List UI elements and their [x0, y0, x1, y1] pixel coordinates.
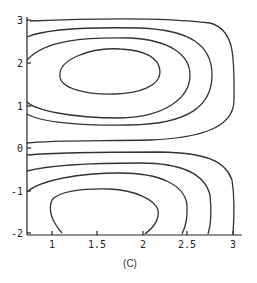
- contour-line: [60, 49, 160, 94]
- contour-line: [27, 38, 190, 118]
- contour-lines: [27, 19, 234, 234]
- y-tick-label: 1: [17, 101, 23, 112]
- contour-line: [27, 28, 212, 125]
- x-tick-label: 1: [49, 239, 55, 250]
- y-tick-label: 3: [17, 15, 23, 26]
- y-tick-label: -1: [11, 186, 23, 197]
- y-tick-label: 0: [17, 143, 23, 154]
- x-tick-label: 2: [140, 239, 146, 250]
- x-tick-label: 1.5: [88, 239, 106, 250]
- y-ticks: 3 2 1 0 -1 -2: [11, 15, 31, 239]
- contour-chart: 3 2 1 0 -1 -2 1 1.5 2 2.5 3 (C): [0, 0, 257, 283]
- x-tick-label: 2.5: [178, 239, 196, 250]
- x-tick-label: 3: [230, 239, 236, 250]
- contour-line: [50, 189, 158, 234]
- figure-caption: (C): [123, 258, 137, 269]
- y-tick-label: -2: [11, 228, 23, 239]
- y-tick-label: 2: [17, 58, 23, 69]
- contour-line: [27, 152, 234, 234]
